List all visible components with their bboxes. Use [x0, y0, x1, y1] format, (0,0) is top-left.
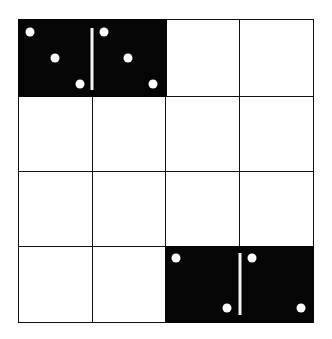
pip	[76, 80, 85, 89]
pip	[149, 80, 158, 89]
grid-cell[interactable]	[18, 96, 93, 172]
grid-cell[interactable]	[239, 96, 314, 172]
grid-cell[interactable]	[239, 171, 314, 247]
domino-divider	[91, 28, 94, 90]
grid-cell[interactable]	[18, 246, 93, 323]
grid-cell[interactable]	[239, 19, 314, 97]
domino-divider	[239, 253, 242, 315]
grid-cell[interactable]	[92, 96, 167, 172]
pip	[248, 254, 257, 263]
domino-3-3[interactable]	[18, 19, 167, 97]
pip	[297, 304, 306, 313]
pip	[26, 28, 35, 37]
pip	[172, 254, 181, 263]
pip	[124, 54, 133, 63]
grid-cell[interactable]	[18, 171, 93, 247]
grid-cell[interactable]	[165, 19, 240, 97]
grid-cell[interactable]	[92, 246, 167, 323]
grid-cell[interactable]	[92, 171, 167, 247]
grid-cell[interactable]	[165, 96, 240, 172]
pip	[100, 28, 109, 37]
grid-cell[interactable]	[165, 171, 240, 247]
pip	[223, 304, 232, 313]
domino-grid	[18, 19, 314, 323]
pip	[51, 54, 60, 63]
domino-2-2[interactable]	[165, 246, 314, 323]
